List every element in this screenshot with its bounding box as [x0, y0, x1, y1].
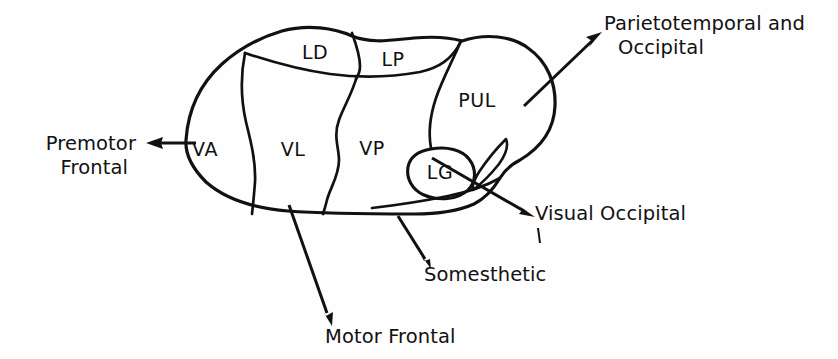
arrow-somesthetic [398, 216, 431, 269]
thalamus-diagram: VA VL LD LP VP PUL LG Premotor Frontal P… [0, 0, 838, 359]
callout-parietotemporal-line1: Parietotemporal and [604, 12, 805, 35]
boundary-va-vl [242, 53, 255, 214]
stray-mark [537, 228, 541, 243]
callout-visual-occipital: Visual Occipital [535, 202, 686, 225]
nucleus-label-ld: LD [302, 41, 328, 63]
thalamus-outline [186, 27, 555, 214]
boundary-vp-pul [430, 41, 461, 148]
callout-motor-frontal: Motor Frontal [325, 325, 456, 348]
nucleus-label-va: VA [192, 138, 218, 160]
boundary-ld-lower [245, 41, 461, 76]
figure-canvas: VA VL LD LP VP PUL LG Premotor Frontal P… [0, 0, 838, 359]
arrow-parietotemporal-occipital [524, 32, 602, 106]
callout-premotor-frontal-line1: Premotor [46, 132, 137, 155]
callout-parietotemporal-line2: Occipital [618, 36, 704, 59]
nucleus-label-vp: VP [359, 137, 384, 159]
arrow-premotor-frontal [146, 137, 196, 149]
nucleus-label-vl: VL [281, 138, 306, 160]
nucleus-label-lg: LG [427, 161, 453, 183]
nucleus-label-lp: LP [381, 48, 404, 70]
nucleus-label-pul: PUL [458, 89, 495, 111]
arrow-motor-frontal [289, 205, 333, 326]
boundary-vl-vp [323, 76, 357, 214]
callout-somesthetic: Somesthetic [424, 263, 546, 286]
callout-premotor-frontal-line2: Frontal [61, 156, 128, 179]
